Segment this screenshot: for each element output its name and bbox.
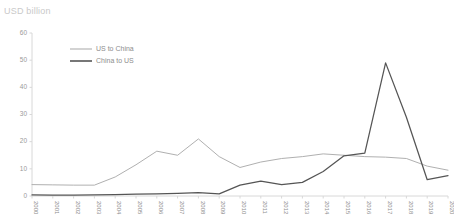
y-tick-label: 40	[20, 83, 28, 90]
x-tick-label: 2014	[324, 201, 330, 215]
y-tick-label: 50	[20, 56, 28, 63]
x-tick-label: 2005	[137, 201, 143, 215]
y-tick-label: 60	[20, 29, 28, 36]
x-tick-label: 2018	[408, 201, 414, 215]
x-tick-label: 2019	[428, 201, 434, 215]
x-tick-label: 2011	[262, 201, 268, 215]
series-line	[32, 63, 448, 195]
legend-label: China to US	[96, 57, 134, 64]
x-tick-label: 2002	[75, 201, 81, 215]
series-line	[32, 139, 448, 185]
x-tick-label: 2012	[283, 201, 289, 215]
y-tick-label: 0	[23, 192, 27, 199]
x-tick-label: 2010	[241, 201, 247, 215]
x-tick-label: 2004	[116, 201, 122, 215]
x-tick-label: 2020	[449, 201, 454, 215]
x-tick-label: 2015	[345, 201, 351, 215]
x-tick-label: 2009	[220, 201, 226, 215]
chart-plot-area: 0102030405060200020012002200320042005200…	[0, 0, 454, 221]
y-tick-label: 30	[20, 110, 28, 117]
x-tick-label: 2006	[158, 201, 164, 215]
x-tick-label: 2000	[33, 201, 39, 215]
x-tick-label: 2017	[387, 201, 393, 215]
x-tick-label: 2013	[304, 201, 310, 215]
y-tick-label: 20	[20, 137, 28, 144]
x-tick-label: 2016	[366, 201, 372, 215]
x-tick-label: 2007	[179, 201, 185, 215]
legend-label: US to China	[96, 45, 134, 52]
x-tick-label: 2001	[54, 201, 60, 215]
line-chart: USD billion 0102030405060200020012002200…	[0, 0, 454, 221]
x-tick-label: 2008	[200, 201, 206, 215]
x-tick-label: 2003	[96, 201, 102, 215]
y-tick-label: 10	[20, 165, 28, 172]
